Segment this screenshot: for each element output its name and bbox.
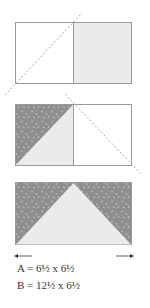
step-1-block	[5, 13, 132, 95]
label-a: A = 6½ x 6½	[17, 262, 75, 274]
left-arrow-icon	[14, 254, 32, 258]
right-arrow-icon	[116, 254, 134, 258]
rectangle-b-half	[74, 23, 132, 84]
square-right	[74, 105, 132, 166]
label-b: B = 12½ x 6½	[17, 279, 80, 291]
step-3-block	[16, 183, 132, 245]
step-2-block	[16, 94, 143, 175]
